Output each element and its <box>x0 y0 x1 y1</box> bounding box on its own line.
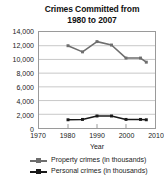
data-point-personal <box>81 118 84 121</box>
y-axis-tick-label: 12,000 <box>13 42 34 49</box>
data-point-personal <box>110 115 113 118</box>
data-point-property <box>139 57 142 60</box>
data-point-personal <box>145 118 148 121</box>
data-point-property <box>96 40 99 43</box>
data-point-property <box>145 61 148 64</box>
x-axis-tick-label: 1980 <box>60 131 76 140</box>
y-axis-tick-label: 10,000 <box>13 56 34 63</box>
crimes-line-chart: Crimes Committed from 1980 to 2007 02,00… <box>0 0 164 180</box>
legend-marker-personal-icon <box>30 171 47 172</box>
x-axis-title: Year <box>38 142 156 151</box>
series-line-personal <box>68 116 146 120</box>
legend-item-personal: Personal crimes (in thousands) <box>0 166 164 177</box>
y-axis-tick-label: 6,000 <box>16 84 34 91</box>
data-point-property <box>67 44 70 47</box>
chart-title-line-2: 1980 to 2007 <box>24 15 160 26</box>
legend-marker-property-icon <box>30 160 47 161</box>
chart-title: Crimes Committed from 1980 to 2007 <box>24 4 160 25</box>
data-point-personal <box>96 115 99 118</box>
legend-label-property: Property crimes (in thousands) <box>51 154 146 165</box>
y-axis-tick-label: 2,000 <box>16 112 34 119</box>
chart-title-line-1: Crimes Committed from <box>24 4 160 15</box>
x-axis-tick-label: 2010 <box>148 131 164 140</box>
plot-wrapper: 02,0004,0006,0008,00010,00012,00014,000 <box>0 28 164 132</box>
x-axis-tick-label: 2000 <box>119 131 135 140</box>
plot-area <box>38 31 156 129</box>
x-axis-tick-label: 1970 <box>30 131 46 140</box>
data-point-property <box>125 57 128 60</box>
data-point-personal <box>139 118 142 121</box>
y-axis-tick-label: 14,000 <box>13 28 34 35</box>
chart-legend: Property crimes (in thousands) Personal … <box>0 155 164 180</box>
y-axis-tick-labels: 02,0004,0006,0008,00010,00012,00014,000 <box>0 28 36 132</box>
data-point-property <box>110 44 113 47</box>
x-axis-tick-label: 1990 <box>89 131 105 140</box>
y-axis-tick-label: 4,000 <box>16 98 34 105</box>
data-point-personal <box>67 118 70 121</box>
plot-svg <box>39 32 155 128</box>
data-point-property <box>81 50 84 53</box>
data-point-personal <box>125 118 128 121</box>
legend-label-personal: Personal crimes (in thousands) <box>51 165 148 176</box>
y-axis-tick-label: 8,000 <box>16 70 34 77</box>
